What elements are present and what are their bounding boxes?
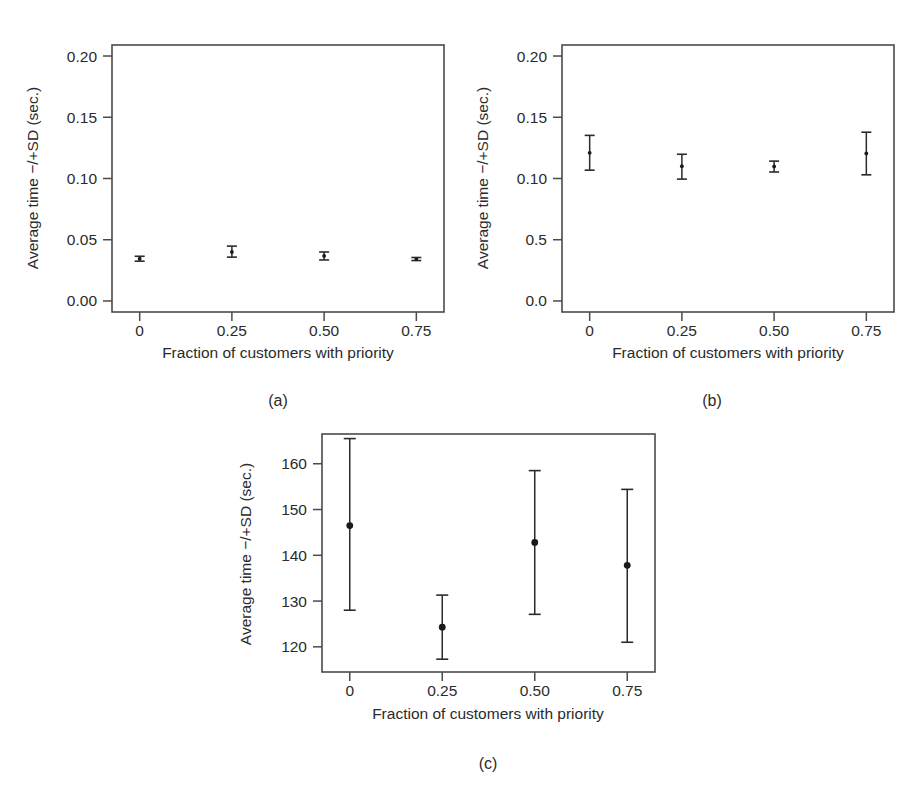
y-tick-label: 0.05 (67, 231, 97, 248)
data-point-marker (346, 522, 353, 529)
y-tick-label: 160 (281, 455, 307, 472)
y-axis-title: Average time −/+SD (sec.) (474, 87, 491, 269)
data-point-marker (588, 151, 592, 155)
y-tick-label: 150 (281, 501, 307, 518)
y-axis-ticks: 120130140150160 (281, 455, 322, 655)
y-axis-title: Average time −/+SD (sec.) (24, 87, 41, 269)
x-tick-label: 0.25 (667, 322, 697, 339)
error-bar-series (344, 439, 634, 660)
error-bar-point (135, 256, 145, 261)
error-bar-point (677, 154, 687, 179)
y-axis-title: Average time −/+SD (sec.) (237, 463, 254, 645)
chart-panel-c: 120130140150160 00.250.500.75 Average ti… (222, 404, 678, 794)
y-tick-label: 0.5 (525, 231, 547, 248)
y-axis-ticks: 0.000.050.100.150.20 (67, 48, 112, 310)
error-bar-point (585, 135, 595, 170)
y-tick-label: 0.15 (67, 109, 97, 126)
x-axis-title: Fraction of customers with priority (612, 344, 844, 361)
panel-b-plot-area: 0.00.50.100.150.20 00.250.500.75 (517, 45, 894, 339)
y-tick-label: 0.20 (67, 48, 98, 65)
data-point-marker (414, 257, 418, 261)
x-tick-label: 0.75 (612, 682, 642, 699)
panel-a-plot-area: 0.000.050.100.150.20 00.250.500.75 (67, 45, 444, 339)
y-tick-label: 0.0 (525, 292, 547, 309)
x-axis-ticks: 00.250.500.75 (585, 312, 881, 339)
x-tick-label: 0.25 (427, 682, 457, 699)
x-tick-label: 0.50 (520, 682, 551, 699)
error-bar-point (861, 132, 871, 175)
panel-b-svg: 0.00.50.100.150.20 00.250.500.75 Average… (450, 18, 906, 408)
panel-c-svg: 120130140150160 00.250.500.75 Average ti… (222, 404, 678, 794)
panel-c-plot-area: 120130140150160 00.250.500.75 (281, 434, 655, 699)
y-tick-label: 140 (281, 547, 307, 564)
x-axis-title: Fraction of customers with priority (372, 705, 604, 722)
y-tick-label: 0.10 (517, 170, 548, 187)
data-point-marker (322, 254, 326, 258)
y-tick-label: 0.10 (67, 170, 98, 187)
y-tick-label: 0.20 (517, 48, 548, 65)
data-point-marker (864, 151, 868, 155)
x-tick-label: 0.75 (401, 322, 431, 339)
error-bar-point (227, 246, 237, 257)
y-axis-ticks: 0.00.50.100.150.20 (517, 48, 562, 310)
data-point-marker (772, 165, 776, 169)
panel-a-svg: 0.000.050.100.150.20 00.250.500.75 Avera… (0, 18, 456, 408)
data-point-marker (138, 257, 142, 261)
x-tick-label: 0.50 (309, 322, 340, 339)
x-axis-title: Fraction of customers with priority (162, 344, 394, 361)
x-axis-ticks: 00.250.500.75 (135, 312, 431, 339)
x-tick-label: 0.50 (759, 322, 790, 339)
error-bar-point (769, 161, 779, 172)
error-bar-point (529, 471, 541, 615)
data-point-marker (531, 539, 538, 546)
error-bar-point (319, 252, 329, 260)
chart-panel-b: 0.00.50.100.150.20 00.250.500.75 Average… (450, 18, 906, 408)
error-bar-point (621, 489, 633, 642)
plot-frame (562, 45, 894, 312)
error-bar-point (411, 257, 421, 261)
panel-caption-b: (b) (702, 392, 722, 409)
data-point-marker (624, 562, 631, 569)
panel-caption-c: (c) (479, 755, 498, 772)
data-point-marker (439, 624, 446, 631)
plot-frame (112, 45, 444, 312)
error-bar-series (585, 132, 872, 179)
y-tick-label: 0.00 (67, 292, 98, 309)
figure-container: 0.000.050.100.150.20 00.250.500.75 Avera… (0, 0, 906, 794)
data-point-marker (230, 250, 234, 254)
x-axis-ticks: 00.250.500.75 (345, 672, 642, 699)
chart-panel-a: 0.000.050.100.150.20 00.250.500.75 Avera… (0, 18, 456, 408)
error-bar-series (135, 246, 422, 261)
x-tick-label: 0 (135, 322, 144, 339)
x-tick-label: 0 (585, 322, 594, 339)
plot-frame (322, 434, 655, 672)
y-tick-label: 120 (281, 638, 307, 655)
y-tick-label: 0.15 (517, 109, 547, 126)
error-bar-point (436, 595, 448, 659)
x-tick-label: 0.25 (217, 322, 247, 339)
y-tick-label: 130 (281, 593, 307, 610)
x-tick-label: 0.75 (851, 322, 881, 339)
data-point-marker (680, 164, 684, 168)
error-bar-point (344, 439, 356, 611)
x-tick-label: 0 (345, 682, 354, 699)
